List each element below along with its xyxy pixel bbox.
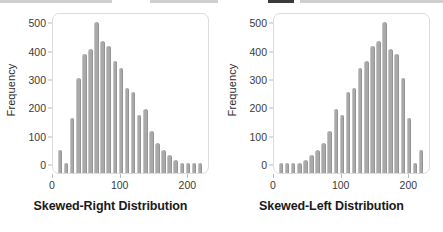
panel-caption-left: Skewed-Right Distribution <box>0 199 221 213</box>
panel-skewed-left: Frequency 0100200300400500 0100200 Skewe… <box>221 0 442 232</box>
y-axis-title-right-text: Frequency <box>226 64 238 117</box>
x-tick-mark <box>341 174 342 178</box>
histogram-bar <box>358 68 363 174</box>
y-tick-label: 300 <box>28 74 46 86</box>
histogram-bar <box>401 78 406 174</box>
y-tick-label: 100 <box>249 131 267 143</box>
histogram-bar <box>334 109 339 174</box>
y-tick-label: 200 <box>249 102 267 114</box>
y-tick-label: 500 <box>249 17 267 29</box>
x-tick-mark <box>408 174 409 178</box>
plot-area-right <box>273 13 430 174</box>
y-tick-label: 400 <box>249 46 267 58</box>
panel-skewed-right: Frequency 0100200300400500 0100200 Skewe… <box>0 0 221 232</box>
y-axis-ticks-right: 0100200300400500 <box>239 0 273 180</box>
histogram-bar <box>198 163 203 174</box>
histogram-bar <box>58 150 63 174</box>
histogram-bar <box>321 143 326 174</box>
x-tick-label: 200 <box>179 179 197 191</box>
x-tick-mark <box>120 174 121 178</box>
histogram-bar <box>382 22 387 174</box>
histogram-bar <box>143 109 148 174</box>
bars-left <box>53 14 208 173</box>
plot-area-left <box>52 13 209 174</box>
histogram-bar <box>394 54 399 174</box>
y-tick-label: 200 <box>28 102 46 114</box>
histogram-bar <box>340 115 345 174</box>
y-axis-title-left-text: Frequency <box>5 64 17 117</box>
histogram-bar <box>155 143 160 174</box>
histogram-bar <box>100 41 105 174</box>
bars-right <box>274 14 429 173</box>
histogram-bar <box>309 155 314 174</box>
histogram-bar <box>82 54 87 174</box>
histogram-bar <box>94 22 99 174</box>
histogram-bar <box>173 160 178 174</box>
histogram-bar <box>315 150 320 174</box>
histogram-bar <box>131 92 136 174</box>
histogram-bar <box>167 155 172 174</box>
histogram-bar <box>419 150 424 174</box>
y-tick-label: 300 <box>249 74 267 86</box>
histogram-bar <box>70 118 75 174</box>
histogram-bar <box>125 88 130 174</box>
histogram-bar <box>119 68 124 174</box>
histogram-bar <box>346 92 351 174</box>
histogram-bar <box>327 131 332 174</box>
histogram-bar <box>364 61 369 174</box>
histogram-figure: Frequency 0100200300400500 0100200 Skewe… <box>0 0 443 232</box>
x-tick-label: 100 <box>111 179 129 191</box>
histogram-bar <box>303 160 308 174</box>
y-tick-label: 500 <box>28 17 46 29</box>
histogram-bar <box>285 163 290 174</box>
histogram-bar <box>106 46 111 174</box>
y-tick-label: 0 <box>261 159 267 171</box>
histogram-bar <box>413 163 418 174</box>
histogram-bar <box>192 163 197 174</box>
histogram-bar <box>388 49 393 174</box>
x-tick-mark <box>273 174 274 178</box>
histogram-bar <box>64 163 69 174</box>
panel-caption-right: Skewed-Left Distribution <box>221 199 442 213</box>
histogram-bar <box>279 163 284 174</box>
histogram-bar <box>149 131 154 174</box>
x-tick-label: 0 <box>49 179 55 191</box>
histogram-bar <box>186 163 191 174</box>
x-tick-mark <box>187 174 188 178</box>
histogram-bar <box>376 41 381 174</box>
histogram-bar <box>297 163 302 174</box>
histogram-bar <box>352 88 357 174</box>
x-axis-ticks-left: 0100200 <box>52 174 209 196</box>
histogram-bar <box>180 163 185 174</box>
x-tick-label: 0 <box>270 179 276 191</box>
histogram-bar <box>76 78 81 174</box>
x-axis-ticks-right: 0100200 <box>273 174 430 196</box>
histogram-bar <box>291 163 296 174</box>
histogram-bar <box>370 46 375 174</box>
x-tick-label: 100 <box>332 179 350 191</box>
histogram-bar <box>407 118 412 174</box>
y-axis-ticks-left: 0100200300400500 <box>18 0 52 180</box>
y-tick-label: 0 <box>40 159 46 171</box>
histogram-bar <box>137 115 142 174</box>
histogram-bar <box>113 61 118 174</box>
y-tick-label: 100 <box>28 131 46 143</box>
x-tick-mark <box>52 174 53 178</box>
y-tick-label: 400 <box>28 46 46 58</box>
histogram-bar <box>161 150 166 174</box>
x-tick-label: 200 <box>400 179 418 191</box>
histogram-bar <box>88 49 93 174</box>
